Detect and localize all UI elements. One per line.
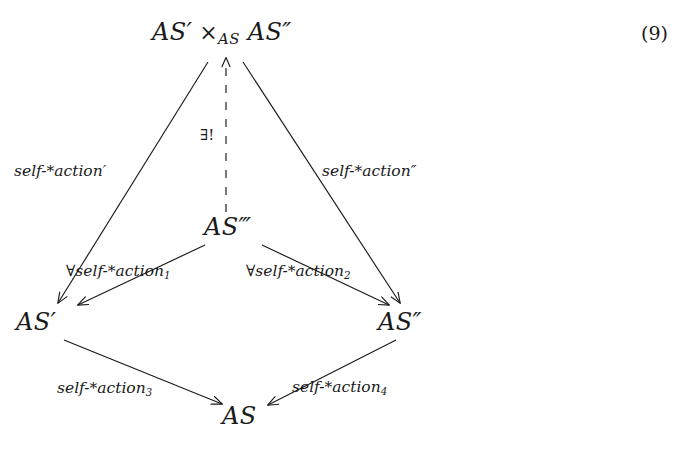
node-bottom: AS [222, 404, 256, 428]
edge-label-right-to-bottom: self-*action4 [292, 380, 387, 397]
node-middle-base: AS [204, 213, 238, 241]
fiber-product-times-icon: × [199, 20, 218, 45]
node-apex-operator-subscript: AS [218, 30, 240, 48]
node-middle-primes: ‴ [238, 213, 250, 241]
edge-label-middle-to-right-text: ∀self-*action [246, 262, 344, 280]
node-bottom-base: AS [222, 402, 256, 430]
node-right: AS″ [378, 310, 421, 334]
edge-label-apex-to-right: self-*action″ [322, 164, 416, 180]
edge-label-right-to-bottom-text: self-*action [292, 378, 381, 396]
edge-label-middle-to-left-text: ∀self-*action [66, 262, 164, 280]
node-left: AS′ [16, 310, 55, 334]
equation-number: (9) [641, 24, 668, 43]
node-apex-right-primes: ″ [282, 18, 290, 46]
node-apex-left-primes: ′ [186, 18, 191, 46]
edge-label-middle-to-left: ∀self-*action1 [66, 264, 171, 281]
node-apex: AS′ ×AS AS″ [152, 20, 291, 47]
edge-label-middle-to-right: ∀self-*action2 [246, 264, 351, 281]
edge-label-left-to-bottom-subscript: 3 [146, 387, 153, 398]
node-apex-left-base: AS [152, 18, 186, 46]
edge-label-apex-to-left: self-*action′ [14, 164, 106, 180]
edge-label-left-to-bottom-text: self-*action [57, 379, 146, 397]
edge-label-right-to-bottom-subscript: 4 [381, 386, 388, 397]
edge-label-unique-existence: ∃! [200, 128, 214, 143]
edge-label-middle-to-right-subscript: 2 [344, 270, 351, 281]
node-middle: AS‴ [204, 215, 250, 239]
node-right-primes: ″ [412, 308, 420, 336]
node-left-base: AS [16, 308, 50, 336]
node-apex-right-base: AS [248, 18, 282, 46]
node-left-primes: ′ [50, 308, 55, 336]
edge-label-middle-to-left-subscript: 1 [164, 270, 171, 281]
commutative-diagram: AS′ ×AS AS″ AS‴ AS′ AS″ AS self-*action′… [0, 0, 693, 451]
node-right-base: AS [378, 308, 412, 336]
edge-label-left-to-bottom: self-*action3 [57, 381, 152, 398]
